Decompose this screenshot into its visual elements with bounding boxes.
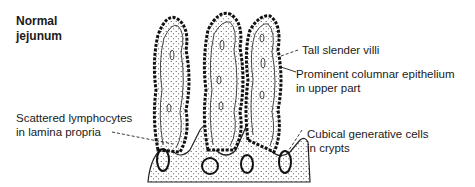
label-line: in crypts [307,141,428,155]
villus-1 [154,17,189,152]
jejunum-diagram: Normal jejunum [0,0,475,187]
label-generative-cells: Cubical generative cells in crypts [307,127,428,155]
label-columnar-epithelium: Prominent columnar epithelium in upper p… [296,67,455,95]
label-line: Tall slender villi [302,43,379,57]
label-tall-villi: Tall slender villi [302,43,379,57]
label-line: in lamina propria [16,125,132,139]
label-lymphocytes: Scattered lymphocytes in lamina propria [16,111,132,139]
label-line: Scattered lymphocytes [16,111,132,125]
label-line: Cubical generative cells [307,127,428,141]
label-line: Prominent columnar epithelium [296,67,455,81]
villus-2 [204,13,243,150]
villus-3 [246,16,281,152]
label-line: in upper part [296,81,455,95]
